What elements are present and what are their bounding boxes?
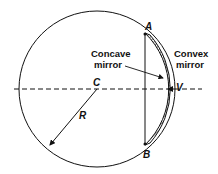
- label-convex-mirror-line2: mirror: [176, 60, 204, 70]
- label-vertex: V: [176, 83, 183, 93]
- label-point-b: B: [143, 150, 150, 160]
- label-point-a: A: [145, 22, 152, 32]
- radius-arrow: [50, 89, 97, 145]
- point-a-dot: [144, 33, 147, 36]
- point-b-dot: [144, 143, 147, 146]
- label-convex-mirror-line1: Convex: [174, 49, 208, 59]
- concave-pointer-arrow: [125, 66, 163, 78]
- mirror-diagram: [0, 0, 218, 174]
- label-concave-mirror-line2: mirror: [94, 60, 122, 70]
- label-concave-mirror-line1: Concave: [91, 49, 131, 59]
- label-center: C: [93, 78, 100, 88]
- label-radius: R: [79, 111, 86, 121]
